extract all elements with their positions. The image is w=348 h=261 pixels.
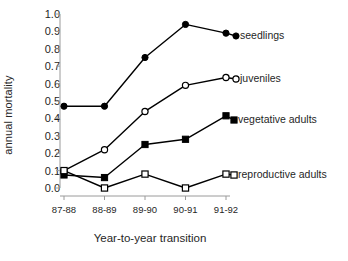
series-label-reproductive-adults: reproductive adults xyxy=(238,168,327,180)
data-point-marker xyxy=(61,168,67,174)
series-legend-marker-seedlings xyxy=(233,33,239,39)
data-point-marker xyxy=(101,103,107,109)
data-point-marker xyxy=(182,21,188,27)
data-point-marker xyxy=(101,185,107,191)
series-label-juveniles: juveniles xyxy=(240,72,281,84)
x-axis-title: Year-to-year transition xyxy=(40,232,260,244)
data-point-marker xyxy=(101,147,107,153)
series-line-seedlings xyxy=(64,24,226,106)
x-tick-label: 87-88 xyxy=(41,204,87,215)
data-point-marker xyxy=(223,171,229,177)
mortality-line-chart: annual mortality 0.00.10.20.30.40.50.60.… xyxy=(0,0,348,261)
data-point-marker xyxy=(182,185,188,191)
data-point-marker xyxy=(142,108,148,114)
series-legend-marker-reproductive-adults xyxy=(231,172,237,178)
data-point-marker xyxy=(142,141,148,147)
data-point-marker xyxy=(223,30,229,36)
data-point-marker xyxy=(223,113,229,119)
series-legend-marker-vegetative-adults xyxy=(231,117,237,123)
data-point-marker xyxy=(182,82,188,88)
series-line-juveniles xyxy=(64,78,226,171)
series-label-vegetative-adults: vegetative adults xyxy=(238,113,317,125)
series-label-seedlings: seedlings xyxy=(240,29,284,41)
data-point-marker xyxy=(101,174,107,180)
x-tick-label: 91-92 xyxy=(203,204,249,215)
data-point-marker xyxy=(61,103,67,109)
plot-area xyxy=(0,0,348,261)
data-point-marker xyxy=(142,171,148,177)
series-legend-marker-juveniles xyxy=(233,76,239,82)
x-axis-tick-labels: 87-8888-8989-9090-9191-92 xyxy=(60,204,240,220)
data-point-marker xyxy=(182,136,188,142)
x-tick-label: 88-89 xyxy=(82,204,128,215)
x-tick-label: 90-91 xyxy=(163,204,209,215)
data-point-marker xyxy=(223,74,229,80)
x-tick-label: 89-90 xyxy=(122,204,168,215)
data-point-marker xyxy=(142,54,148,60)
